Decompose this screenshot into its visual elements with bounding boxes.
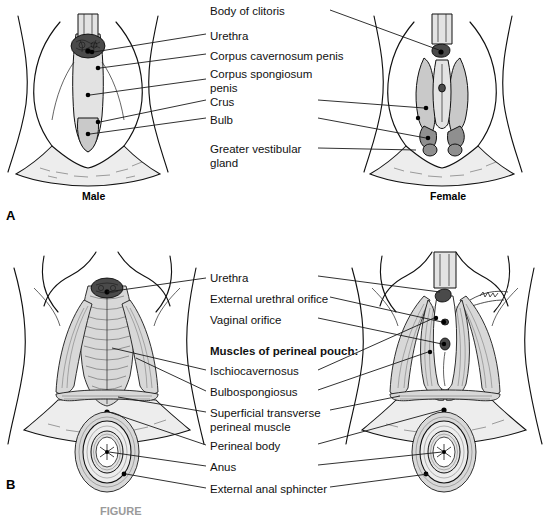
label-greater-vestibular-gland: Greater vestibular gland — [210, 143, 301, 170]
dot-crus-female — [424, 106, 429, 111]
label-body-of-clitoris: Body of clitoris — [210, 5, 285, 19]
label-urethra-a: Urethra — [210, 30, 248, 44]
dot-ischiocavernosus-female — [434, 316, 438, 320]
female-perineum-drawing-b — [318, 252, 542, 492]
dot-vaginal-orifice — [442, 342, 446, 346]
sex-label-female: Female — [430, 190, 466, 202]
figure-caption: FIGURE — [100, 505, 142, 517]
label-vaginal-orifice: Vaginal orifice — [210, 314, 281, 328]
male-perineum-drawing-b — [8, 252, 206, 492]
dot-crus-male — [96, 120, 101, 125]
dot-bulbospongiosus-female — [428, 350, 432, 354]
label-external-anal-sphincter: External anal sphincter — [210, 483, 327, 497]
label-muscles-of-perineal-pouch: Muscles of perineal pouch: — [210, 345, 358, 359]
label-corpus-spongiosum-penis: Corpus spongiosum penis — [210, 68, 312, 95]
male-perineum-drawing-a — [8, 14, 206, 186]
dot-gland-female — [416, 116, 420, 120]
label-crus: Crus — [210, 96, 234, 110]
label-anus: Anus — [210, 461, 236, 475]
dot-urethra-male — [90, 50, 95, 55]
label-external-urethral-orifice: External urethral orifice — [210, 293, 328, 307]
dot-external-urethral-orifice — [442, 320, 446, 324]
label-bulbospongiosus: Bulbospongiosus — [210, 386, 298, 400]
label-urethra-b: Urethra — [210, 272, 248, 286]
dot-bulb-male — [86, 132, 91, 137]
label-superficial-transverse-perineal-muscle: Superficial transverse perineal muscle — [210, 407, 321, 434]
label-bulb: Bulb — [210, 114, 233, 128]
sex-label-male: Male — [82, 190, 105, 202]
panel-letter-b: B — [6, 477, 15, 492]
label-ischiocavernosus: Ischiocavernosus — [210, 365, 299, 379]
dot-external-anal-sphincter-male — [122, 472, 127, 477]
dot-bulb-female — [426, 136, 431, 141]
dot-anus-female — [442, 450, 446, 454]
label-corpus-cavernosum-penis: Corpus cavernosum penis — [210, 50, 344, 64]
dot-anus-male — [105, 450, 109, 454]
panel-letter-a: A — [6, 208, 15, 223]
dot-corpus-spongiosum — [86, 93, 91, 98]
dot-corpus-cavernosum — [96, 66, 101, 71]
female-perineum-drawing-a — [318, 10, 522, 186]
label-perineal-body: Perineal body — [210, 440, 280, 454]
dot-body-of-clitoris — [438, 49, 443, 54]
